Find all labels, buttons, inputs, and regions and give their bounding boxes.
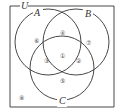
set-a-label: A	[33, 7, 41, 18]
region-a-only: ⑥	[34, 38, 39, 44]
set-a-circle	[15, 9, 81, 75]
region-a-c: ③	[44, 58, 49, 64]
region-b-only: ⑦	[86, 40, 91, 46]
region-c-only: ⑤	[60, 78, 65, 84]
universal-set-label: U	[21, 0, 29, 11]
region-b-c: ②	[76, 58, 81, 64]
region-a-b-c: ①	[60, 53, 65, 59]
region-outside: ⑧	[19, 95, 24, 101]
set-c-circle	[30, 36, 94, 100]
region-a-b: ④	[60, 30, 65, 36]
set-b-label: B	[85, 8, 91, 19]
set-c-label: C	[59, 95, 66, 106]
set-b-circle	[43, 9, 109, 75]
venn-diagram: U A B C ⑥ ④ ⑦ ③ ① ② ⑤ ⑧	[0, 0, 118, 109]
